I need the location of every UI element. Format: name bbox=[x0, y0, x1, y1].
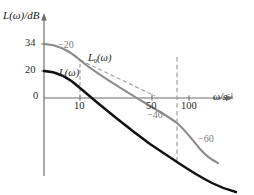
axis-group bbox=[41, 13, 234, 176]
y-axis-label: L(ω)/dB bbox=[3, 10, 40, 21]
bode-plot-figure: L(ω)/dB ω/s−1 34 20 0 10 50 100 −20 −40 … bbox=[0, 0, 254, 195]
y-axis-label-unit: (ω)/dB bbox=[9, 9, 39, 21]
curve-label-L0-arg: (ω) bbox=[97, 52, 111, 63]
dashed-asymptote-20 bbox=[80, 60, 155, 96]
slope-label-minus20: −20 bbox=[58, 40, 74, 50]
ytick-label-0: 0 bbox=[33, 91, 38, 102]
x-axis-label: ω/s−1 bbox=[213, 92, 233, 102]
x-axis-label-omega: ω/s bbox=[213, 91, 227, 102]
y-axis-arrowhead bbox=[41, 13, 47, 21]
curve-label-L: L(ω) bbox=[59, 68, 79, 79]
xtick-label-10: 10 bbox=[74, 101, 85, 112]
figure-caption bbox=[0, 188, 254, 195]
curve-label-L0: L0(ω) bbox=[88, 53, 112, 64]
ytick-label-20: 20 bbox=[25, 65, 36, 76]
curve-L-original bbox=[44, 71, 236, 192]
x-axis-label-exponent: −1 bbox=[227, 91, 234, 98]
slope-label-minus40: −40 bbox=[147, 110, 163, 120]
ytick-label-34: 34 bbox=[25, 38, 36, 49]
xtick-label-100: 100 bbox=[181, 101, 197, 112]
slope-label-minus60: −60 bbox=[198, 134, 214, 144]
